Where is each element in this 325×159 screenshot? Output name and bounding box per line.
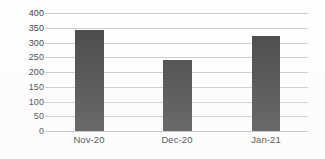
bar-jan-21 bbox=[252, 36, 280, 131]
y-axis-tick-labels: 400 350 300 250 200 150 100 50 0 bbox=[0, 13, 44, 131]
bar-nov-20 bbox=[75, 30, 104, 131]
y-axis-tick-label: 200 bbox=[0, 68, 44, 77]
x-axis-tick-label-jan-21: Jan-21 bbox=[251, 134, 281, 146]
y-axis-tick-label: 0 bbox=[0, 127, 44, 136]
y-axis-tick-label: 250 bbox=[0, 53, 44, 62]
y-axis-tick-label: 50 bbox=[0, 112, 44, 121]
plot-area bbox=[48, 13, 308, 131]
x-axis-line bbox=[48, 131, 308, 132]
bar-chart: 400 350 300 250 200 150 100 50 0 bbox=[0, 0, 325, 159]
y-axis-tick-label: 350 bbox=[0, 23, 44, 32]
bar-dec-20 bbox=[163, 60, 192, 131]
y-axis-tick-label: 300 bbox=[0, 38, 44, 47]
bar-series bbox=[48, 13, 308, 131]
y-axis-tick-label: 100 bbox=[0, 97, 44, 106]
y-axis-tick-label: 150 bbox=[0, 82, 44, 91]
y-axis-tick-label: 400 bbox=[0, 9, 44, 18]
x-axis-tick-label-nov-20: Nov-20 bbox=[73, 134, 104, 146]
x-axis-tick-label-dec-20: Dec-20 bbox=[161, 134, 192, 146]
x-axis-tick-labels: Nov-20 Dec-20 Jan-21 bbox=[48, 134, 308, 150]
